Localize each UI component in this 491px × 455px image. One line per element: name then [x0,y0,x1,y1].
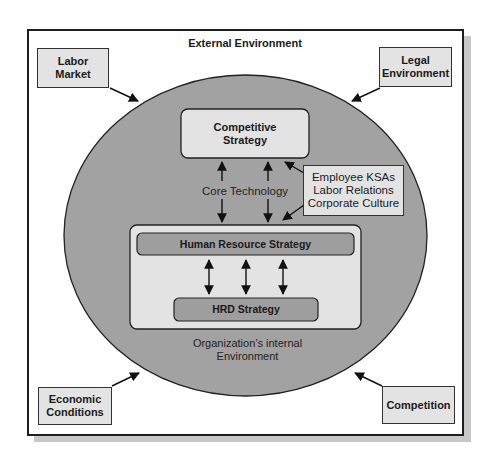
arrow-labor-market [110,88,138,101]
economic-conditions-line1: Economic [46,393,103,406]
internal-environment-caption: Organization’s internal Environment [170,337,325,363]
arrow-competition [355,373,382,386]
arrow-legal-environment [352,88,380,101]
legal-environment-line1: Legal [382,54,449,67]
influences-box: Employee KSAs Labor Relations Corporate … [303,165,404,216]
internal-caption-line1: Organization’s internal [170,337,325,350]
corporate-culture-label: Corporate Culture [308,197,399,210]
core-technology-label: Core Technology [195,185,295,198]
legal-environment-line2: Environment [382,67,449,80]
internal-caption-line2: Environment [170,350,325,363]
external-environment-title: External Environment [170,37,320,50]
competitive-strategy-line2: Strategy [181,134,309,147]
labor-market-line1: Labor [55,55,90,68]
competition-box: Competition [382,386,455,424]
labor-market-line2: Market [55,68,90,81]
competition-label: Competition [386,399,450,412]
arrow-economic-conditions [112,373,139,386]
employee-ksas-label: Employee KSAs [308,171,399,184]
hrd-strategy-label: HRD Strategy [174,303,318,316]
hr-strategy-label: Human Resource Strategy [137,238,354,251]
labor-relations-label: Labor Relations [308,184,399,197]
competitive-strategy-label: Competitive Strategy [181,121,309,147]
legal-environment-box: LegalEnvironment [379,47,452,87]
economic-conditions-box: EconomicConditions [38,387,112,425]
economic-conditions-line2: Conditions [46,406,103,419]
labor-market-box: LaborMarket [37,48,109,88]
competitive-strategy-line1: Competitive [181,121,309,134]
